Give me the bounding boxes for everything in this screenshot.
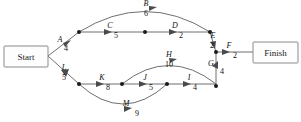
network-node — [120, 82, 124, 86]
activity-duration-D: 2 — [179, 31, 183, 40]
network-node — [165, 82, 169, 86]
arrowhead-B — [149, 6, 157, 11]
network-node — [77, 30, 81, 34]
finish-node[interactable]: Finish — [253, 42, 298, 63]
activity-duration-K: 8 — [106, 83, 110, 92]
network-node — [77, 82, 81, 86]
node-layer — [77, 30, 218, 88]
activity-duration-G: 4 — [220, 67, 224, 76]
label-layer: A 4 B 6 C 5 D 2 E 2 F 2 G 4 H 10 I 4 — [57, 0, 237, 118]
network-node — [214, 50, 218, 54]
activity-network-svg: Start Finish A 4 B 6 C 5 D 2 E 2 F 2 — [0, 0, 301, 122]
activity-label-J: J — [143, 73, 147, 82]
activity-duration-L: 5 — [62, 73, 66, 82]
activity-label-I: I — [187, 73, 191, 82]
activity-label-L: L — [61, 63, 67, 72]
activity-duration-J: 5 — [149, 83, 153, 92]
activity-label-A: A — [57, 35, 63, 44]
diagram-canvas: Start Finish A 4 B 6 C 5 D 2 E 2 F 2 — [0, 0, 301, 122]
arrowhead-layer — [61, 6, 230, 112]
activity-duration-A: 4 — [64, 44, 68, 53]
activity-duration-C: 5 — [114, 31, 118, 40]
activity-label-M: M — [122, 99, 131, 108]
activity-duration-H: 10 — [165, 60, 173, 69]
activity-label-D: D — [171, 21, 178, 30]
activity-duration-E: 2 — [210, 41, 214, 50]
activity-duration-F: 2 — [233, 51, 237, 60]
activity-label-B: B — [144, 0, 149, 8]
activity-label-H: H — [165, 50, 173, 59]
activity-duration-M: 9 — [135, 109, 139, 118]
activity-label-F: F — [226, 41, 232, 50]
network-node — [214, 84, 218, 88]
finish-label: Finish — [264, 48, 287, 58]
activity-duration-I: 4 — [193, 83, 197, 92]
activity-label-E: E — [210, 31, 216, 40]
activity-label-K: K — [98, 73, 105, 82]
activity-label-C: C — [107, 21, 113, 30]
activity-label-G: G — [208, 59, 214, 68]
activity-duration-B: 6 — [144, 9, 148, 18]
network-node — [143, 30, 147, 34]
start-label: Start — [18, 52, 35, 62]
start-node[interactable]: Start — [4, 46, 48, 67]
